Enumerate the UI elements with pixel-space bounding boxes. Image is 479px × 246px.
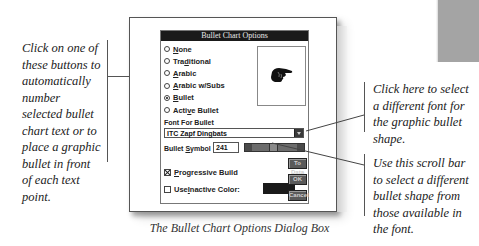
figure-caption: The Bullet Chart Options Dialog Box (0, 221, 479, 236)
callout-pointer-lines (0, 0, 479, 246)
